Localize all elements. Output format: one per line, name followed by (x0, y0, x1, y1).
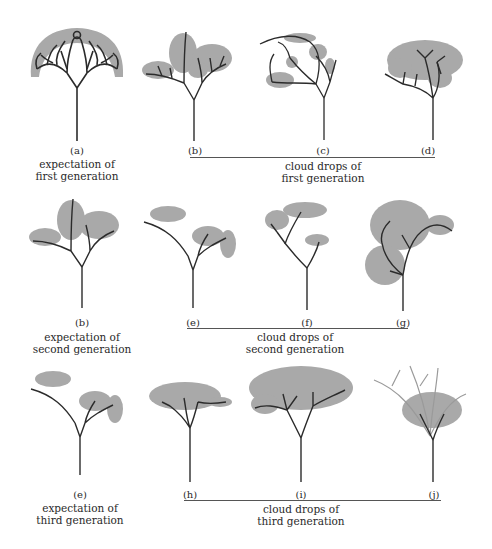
fractal-tree-e-row3 (25, 365, 125, 477)
fractal-tree-a (27, 25, 127, 143)
panel-label-f: (f) (301, 317, 313, 328)
caption-expectation-third: expectation of third generation (36, 502, 123, 526)
fractal-tree-d (375, 28, 475, 142)
caption-line: cloud drops of (257, 503, 344, 515)
caption-expectation-second: expectation of second generation (33, 331, 131, 355)
fractal-tree-f (255, 200, 355, 312)
panel-label-e: (e) (186, 317, 200, 328)
caption-cloud-drops-second: cloud drops of second generation (246, 331, 344, 355)
panel-label-b: (b) (188, 145, 202, 156)
panel-label-g: (g) (396, 317, 410, 328)
group-rule-second (187, 328, 408, 329)
panel-label-b-row2: (b) (75, 317, 89, 328)
panel-label-h: (h) (183, 489, 197, 500)
panel-label-c: (c) (316, 145, 329, 156)
group-rule-first (190, 157, 435, 158)
caption-cloud-drops-third: cloud drops of third generation (257, 503, 344, 527)
caption-line: first generation (36, 170, 119, 182)
caption-line: cloud drops of (246, 331, 344, 343)
fractal-tree-c-row1 (250, 30, 350, 142)
caption-line: third generation (36, 514, 123, 526)
fractal-tree-b-row1 (140, 28, 240, 143)
caption-line: expectation of (36, 158, 119, 170)
caption-line: second generation (33, 343, 131, 355)
caption-expectation-first: expectation of first generation (36, 158, 119, 182)
caption-line: expectation of (36, 502, 123, 514)
caption-line: third generation (257, 515, 344, 527)
caption-line: first generation (282, 172, 365, 184)
fractal-tree-j (370, 360, 470, 484)
caption-line: expectation of (33, 331, 131, 343)
fractal-tree-i (245, 360, 357, 484)
panel-label-e-row3: (e) (73, 489, 87, 500)
fractal-tree-e-row2 (140, 200, 240, 310)
fractal-tree-b-row2 (25, 195, 125, 310)
group-rule-third (184, 500, 441, 501)
fractal-tree-g (360, 195, 460, 313)
caption-line: second generation (246, 343, 344, 355)
panel-label-a: (a) (70, 145, 84, 156)
caption-cloud-drops-first: cloud drops of first generation (282, 160, 365, 184)
panel-label-j: (j) (429, 489, 440, 500)
panel-label-d: (d) (421, 145, 435, 156)
panel-label-i: (i) (295, 489, 306, 500)
fractal-tree-h (140, 378, 240, 484)
caption-line: cloud drops of (282, 160, 365, 172)
